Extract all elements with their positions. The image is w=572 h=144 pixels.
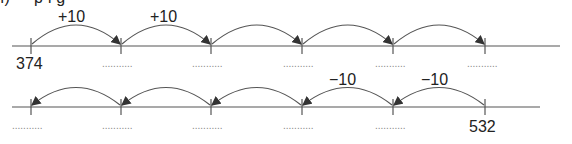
answer-blank[interactable]: ........... xyxy=(283,58,314,69)
answer-blank[interactable]: ........... xyxy=(467,58,498,69)
answer-blank[interactable]: ........... xyxy=(192,120,223,131)
jump-label-4: −10 xyxy=(421,71,448,89)
answer-blank[interactable]: ........... xyxy=(283,120,314,131)
start-value: 374 xyxy=(16,55,43,73)
jump-label-3: −10 xyxy=(329,71,356,89)
answer-blank[interactable]: ........... xyxy=(12,120,43,131)
jump-label-1: +10 xyxy=(58,8,85,26)
number-line-1 xyxy=(12,25,560,54)
number-line-2 xyxy=(12,88,540,116)
answer-blank[interactable]: ........... xyxy=(102,120,133,131)
answer-blank[interactable]: ........... xyxy=(375,120,406,131)
answer-blank[interactable]: ........... xyxy=(375,58,406,69)
answer-blank[interactable]: ........... xyxy=(102,58,133,69)
answer-blank[interactable]: ........... xyxy=(192,58,223,69)
jump-label-2: +10 xyxy=(150,8,177,26)
end-value: 532 xyxy=(469,118,496,136)
